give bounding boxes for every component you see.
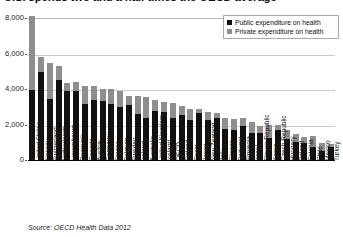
x-axis-label: Denmark <box>79 135 86 161</box>
x-axis-label: United Kingdom <box>158 115 165 161</box>
x-axis-label: Greece <box>228 140 235 161</box>
x-axis-label: Belgium <box>123 138 130 161</box>
x-axis-label: Estonia <box>307 139 314 161</box>
legend-swatch-private-icon <box>227 29 232 34</box>
x-axis-label: Japan <box>202 143 209 161</box>
y-axis-tick-mark <box>25 89 27 90</box>
bar-segment-private <box>38 57 44 72</box>
bar-segment-private <box>240 118 246 126</box>
bar-segment-private <box>135 96 141 114</box>
y-axis-tick-label: 8,000 <box>0 14 24 22</box>
y-axis-tick-mark <box>25 125 27 126</box>
bar-segment-private <box>108 89 114 104</box>
bar-segment-private <box>249 122 255 134</box>
y-axis-tick-mark <box>25 160 27 161</box>
bar-segment-private <box>205 112 211 120</box>
bar-segment-private <box>222 118 228 129</box>
source-note: Source: OECD Health Data 2012 <box>28 224 131 231</box>
x-axis-label: Israel <box>254 145 261 161</box>
bar-segment-private <box>91 86 97 100</box>
chart-title: U.S. spends two and a half times the OEC… <box>4 0 339 3</box>
bar-segment-private <box>152 100 158 112</box>
bar-segment-private <box>82 86 88 103</box>
x-axis-label: Canada <box>88 138 95 161</box>
chart-root: U.S. spends two and a half times the OEC… <box>0 0 343 237</box>
x-axis-labels: United StatesNorwaySwitzerlandNetherland… <box>28 161 335 233</box>
bar-segment-private <box>170 103 176 118</box>
x-axis-label: Portugal <box>237 137 244 161</box>
legend-swatch-public-icon <box>227 20 232 25</box>
bar-segment-private <box>73 82 79 91</box>
x-axis-label: Chile <box>316 146 323 161</box>
x-axis-label: Hungary <box>289 136 296 161</box>
x-axis-label: United States <box>35 122 42 161</box>
x-axis-label: Spain <box>193 144 200 161</box>
legend-item-private: Private expenditure on health <box>227 27 335 36</box>
x-axis-label: Germany <box>105 134 112 161</box>
legend: Public expenditure on health Private exp… <box>223 15 339 39</box>
bar-segment-private <box>187 109 193 120</box>
x-axis-label: Finland <box>184 140 191 161</box>
bar-segment-private <box>117 91 123 107</box>
y-axis-tick-label: 2,000 <box>0 121 24 129</box>
x-axis-label: Austria <box>96 141 103 161</box>
x-axis-label: Iceland <box>166 140 173 161</box>
x-axis-label: Korea <box>272 144 279 161</box>
x-axis-label: Czech Republic <box>280 116 287 161</box>
y-axis-tick-mark <box>25 54 27 55</box>
x-axis-label: Mexico <box>324 140 331 161</box>
x-axis-label: Slovak Republic <box>263 114 270 161</box>
x-axis-label: France <box>114 141 121 161</box>
bar-segment-private <box>29 16 35 89</box>
x-axis-label: Sweden <box>131 137 138 161</box>
x-axis-label: Australia <box>149 136 156 161</box>
legend-item-public: Public expenditure on health <box>227 18 335 27</box>
y-axis-tick-mark <box>25 18 27 19</box>
y-axis-tick-label: 6,000 <box>0 50 24 58</box>
x-axis-label: Italy <box>219 149 226 161</box>
x-axis-label: Switzerland <box>52 127 59 161</box>
x-axis-label: Slovenia <box>245 136 252 161</box>
bar-segment-private <box>161 102 167 113</box>
y-axis-tick-label: 0 <box>0 156 24 164</box>
legend-label-private: Private expenditure on health <box>235 28 323 36</box>
bar-segment-private <box>47 63 53 99</box>
x-axis-label: OECD <box>175 142 182 161</box>
x-axis-label: Turkey <box>333 141 340 161</box>
x-axis-label: New Zealand <box>210 123 217 161</box>
bar-segment-private <box>231 119 237 131</box>
bar-segment-private <box>143 97 149 118</box>
bar-segment-private <box>64 83 70 91</box>
legend-label-public: Public expenditure on health <box>235 19 321 27</box>
bar-segment-private <box>126 96 132 106</box>
x-axis-label: Norway <box>44 139 51 161</box>
x-axis-label: Poland <box>298 141 305 161</box>
x-axis-label: Luxembourg <box>70 125 77 161</box>
x-axis-label: Netherlands <box>61 126 68 161</box>
bar-segment-private <box>56 66 62 81</box>
bar-segment-private <box>179 106 185 115</box>
y-axis-tick-label: 4,000 <box>0 85 24 93</box>
x-axis-label: Ireland <box>140 141 147 161</box>
bar-segment-private <box>100 89 106 101</box>
